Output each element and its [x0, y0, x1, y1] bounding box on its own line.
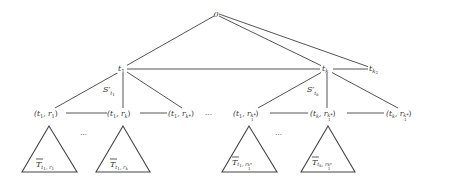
node-tk: tk — [321, 63, 332, 74]
node-t1-r1: (t1, r1) — [34, 109, 58, 119]
node-t1-rk: (t1, rk) — [107, 109, 131, 119]
edge-label-s-t1: S′t1 — [103, 85, 115, 97]
node-t1: t1 — [117, 63, 127, 74]
subtree-t1-r1: Tt1, r1 — [22, 126, 77, 172]
subtree-tk-rkstar1: Ttk, rk*1 — [301, 126, 355, 172]
svg-text:S′t1: S′t1 — [103, 85, 115, 97]
edge-tk-tkrk1b — [331, 72, 398, 108]
ellipsis-level2: … — [205, 109, 212, 117]
edge-label-s-tk: S′tk — [307, 85, 319, 97]
edge-root-tk — [219, 16, 324, 67]
edge-root-tk2 — [219, 14, 369, 67]
ellipsis-subtrees-left: … — [80, 129, 87, 137]
svg-text:(t1, rk): (t1, rk) — [107, 109, 131, 119]
edge-root-t1 — [124, 16, 214, 67]
ellipsis-subtrees-right: … — [275, 129, 282, 137]
svg-text:(t1, r1): (t1, r1) — [34, 109, 58, 119]
node-tk-rkstar1-b: (tk, rk*1) — [386, 109, 411, 122]
svg-text:S′tk: S′tk — [307, 85, 319, 97]
subtree-t1-rkstar1: Tt1, rk*1 — [222, 126, 277, 172]
node-t1-rkstar: (t1, rk*) — [168, 109, 194, 119]
svg-text:(t1, rk*1): (t1, rk*1) — [233, 109, 259, 122]
subtree-t1-rk: Tt1, rk — [96, 126, 150, 172]
node-tk-rkstar1: (tk, rk*1) — [310, 109, 335, 122]
node-t1-rkstar1: (t1, rk*1) — [233, 109, 259, 122]
root-node-label: 0 — [213, 10, 218, 19]
svg-text:(tk, rk*1): (tk, rk*1) — [386, 109, 411, 122]
node-tk2: tk2 — [368, 63, 383, 75]
svg-text:(t1, rk*): (t1, rk*) — [168, 109, 194, 119]
svg-text:(tk, rk*1): (tk, rk*1) — [310, 109, 335, 122]
tree-diagram: 0 t1 tk tk2 S′t1 S′tk (t1, r1) (t1, rk) … — [0, 0, 449, 187]
edge-t1-rkstar — [127, 72, 182, 108]
